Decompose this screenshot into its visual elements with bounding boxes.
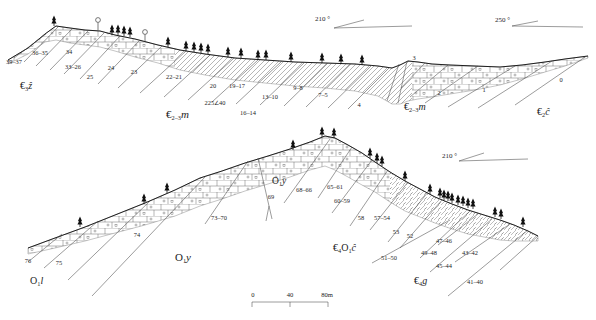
formation-label: €2ĉ xyxy=(537,106,550,118)
bed-label: 49–48 xyxy=(421,249,437,256)
bed-label: 51–50 xyxy=(381,254,397,261)
bed-label: 57–54 xyxy=(374,214,391,221)
bed-label: 60–59 xyxy=(334,197,350,204)
bed-label: 20 xyxy=(210,82,216,89)
formation-label: €2–3m xyxy=(404,101,426,113)
bed-label: 41–40 xyxy=(467,278,483,285)
bed-label: 65–61 xyxy=(327,183,343,190)
formation-label: €4g xyxy=(414,275,427,287)
bed-label: 69 xyxy=(268,193,274,200)
bed-label: 43–42 xyxy=(462,249,478,256)
dip-direction-angle-icon xyxy=(512,21,583,27)
bed-label: 4 xyxy=(357,101,361,108)
bed-label: 45–44 xyxy=(436,262,453,269)
orientation-mark-bottom-right: 210 ° xyxy=(442,152,528,161)
formation-label: O1y xyxy=(175,251,191,264)
bed-label: 76 xyxy=(25,257,31,264)
bed-label: 0 xyxy=(559,76,562,83)
bed-label: 39–37 xyxy=(6,58,23,65)
orientation-angle-label: 210 ° xyxy=(442,152,457,160)
orientation-mark-top-center: 210 ° xyxy=(315,15,412,28)
bed-label: 24 xyxy=(108,64,115,71)
dip-direction-angle-icon xyxy=(459,153,528,161)
top-rock-patterns xyxy=(0,18,596,125)
bed-label: 53 xyxy=(393,228,399,235)
scale-bar: 0 40 80m xyxy=(251,291,333,307)
bed-label: 58 xyxy=(358,214,364,221)
bed-label: 74 xyxy=(134,231,141,238)
bed-label: 2 xyxy=(437,89,440,96)
geological-cross-section-figure: 39–37 36–35 34 33–26 25 24 23 22–21 20 1… xyxy=(0,0,596,320)
orientation-angle-label: 250 ° xyxy=(495,16,510,24)
scale-bar-line xyxy=(252,302,328,307)
formation-label: €4O1ĉ xyxy=(333,242,357,254)
bed-label: 34 xyxy=(66,48,73,55)
bed-label: 33–26 xyxy=(65,63,81,70)
formation-label: O1l xyxy=(30,275,43,287)
bed-label: 36–35 xyxy=(32,49,48,56)
scale-tick-label: 0 xyxy=(251,291,255,298)
bed-label: 68–66 xyxy=(296,186,312,193)
bed-label: 9–8 xyxy=(293,84,303,91)
bed-label: 25 xyxy=(87,73,93,80)
bed-label: 7–5 xyxy=(318,91,328,98)
scale-tick-label: 40 xyxy=(287,291,294,298)
bottom-cross-section: 76 75 74 73–70 69 68–66 65–61 60–59 58 5… xyxy=(0,126,596,296)
bed-label: 16–14 xyxy=(240,109,257,116)
bed-label: 1 xyxy=(482,86,485,93)
cross-section-svg: 39–37 36–35 34 33–26 25 24 23 22–21 20 1… xyxy=(0,0,596,320)
bed-label: 13–10 xyxy=(262,93,278,100)
bed-label: 3 xyxy=(412,54,415,61)
bed-label: 23 xyxy=(131,68,137,75)
top-cross-section: 39–37 36–35 34 33–26 25 24 23 22–21 20 1… xyxy=(0,15,596,125)
orientation-angle-label: 210 ° xyxy=(315,15,330,23)
formation-label: €3ẑ xyxy=(20,80,32,92)
bed-label: 52 xyxy=(407,232,413,239)
bed-label: 22–21 xyxy=(166,73,182,80)
bed-label: 75 xyxy=(56,259,62,266)
dip-direction-angle-icon xyxy=(334,20,412,28)
bed-label: 47–46 xyxy=(436,237,452,244)
scale-tick-label: 80m xyxy=(321,291,334,298)
bottom-rock-patterns xyxy=(0,128,596,260)
dip-measurement-label: 225∠40 xyxy=(205,99,226,106)
bed-label: 73–70 xyxy=(211,214,227,221)
orientation-mark-top-right: 250 ° xyxy=(495,16,583,27)
formation-label: €2–3m xyxy=(166,108,189,121)
bed-label: 19–17 xyxy=(229,82,246,89)
